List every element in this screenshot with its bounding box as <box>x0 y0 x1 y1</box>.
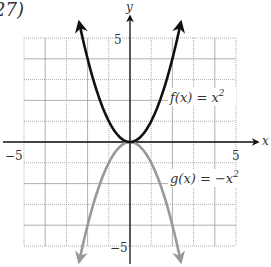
x-tick-max: 5 <box>232 149 240 163</box>
x-tick-min: −5 <box>5 149 23 163</box>
y-tick-max: 5 <box>114 33 122 47</box>
svg-text:f(x) = x2: f(x) = x2 <box>169 88 225 105</box>
f-label: f(x) = x2 <box>168 88 236 106</box>
x-axis-label: x <box>262 134 269 148</box>
graph-canvas: 27) y x 5 −5 −5 5 f(x) = x2 g(x) = −x2 <box>0 0 271 267</box>
y-tick-min: −5 <box>110 241 128 255</box>
g-label: g(x) = −x2 <box>168 169 250 187</box>
problem-number: 27) <box>0 0 24 20</box>
y-axis-label: y <box>125 0 133 14</box>
svg-text:g(x) = −x2: g(x) = −x2 <box>170 169 239 186</box>
